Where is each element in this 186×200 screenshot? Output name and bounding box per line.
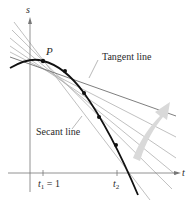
tangent-leader	[89, 60, 98, 78]
tangent-line-label: Tangent line	[102, 52, 152, 62]
s-axis-arrow-icon	[28, 17, 32, 24]
diagram-canvas	[0, 0, 186, 200]
point-p-label: P	[46, 46, 53, 57]
s-axis-label: s	[26, 5, 30, 15]
t1-tick-label: t1 = 1	[38, 179, 60, 191]
t-axis-label: t	[182, 168, 185, 178]
secant-tangent-diagram: s t P Tangent line Secant line t1 = 1 t2	[0, 0, 186, 200]
t-axis-arrow-icon	[174, 171, 181, 175]
point-P	[41, 59, 45, 63]
secant-line-label: Secant line	[36, 127, 80, 137]
t2-tick-label: t2	[113, 179, 119, 191]
